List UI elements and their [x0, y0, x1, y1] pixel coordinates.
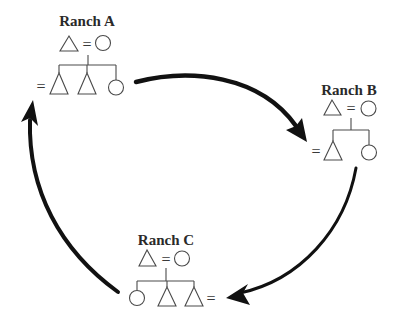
arrow-a-to-b-head-icon: [286, 118, 307, 142]
arrow-a-to-b-shaft: [136, 76, 296, 126]
ranch-c-child-marriage-sign: =: [206, 290, 215, 307]
arrow-b-to-c-head-icon: [226, 284, 250, 305]
ranch-c-parent-marriage-sign: =: [161, 251, 170, 268]
ranch-c-father-triangle-icon: [139, 250, 156, 266]
ranch-a-daughter-circle-icon: [109, 80, 124, 95]
ranch-b-son-triangle-icon: [324, 141, 342, 160]
ranch-b-father-triangle-icon: [324, 100, 341, 115]
ranch-a-father-triangle-icon: [60, 36, 78, 51]
ranch-a-mother-circle-icon: [96, 36, 111, 51]
ranch-b-child-marriage-sign: =: [311, 143, 320, 160]
ranch-a-son-2-triangle-icon: [78, 73, 96, 94]
ranch-b-daughter-circle-icon: [362, 145, 377, 160]
ranch-c-son-1-triangle-icon: [158, 287, 176, 306]
ranch-c-title: Ranch C: [138, 232, 194, 248]
ranch-c-group: Ranch C = =: [130, 232, 216, 307]
arrow-c-to-a-shaft: [30, 120, 118, 292]
arrow-b-to-c: [226, 168, 356, 305]
ranch-a-group: Ranch A = =: [36, 13, 123, 95]
ranch-a-child-marriage-sign: =: [36, 78, 45, 95]
arrow-a-to-b: [136, 76, 307, 142]
ranch-b-mother-circle-icon: [361, 101, 376, 116]
ranch-b-parent-marriage-sign: =: [346, 100, 355, 117]
ranch-exchange-diagram: Ranch A = = Ranch B = = Ranch C =: [0, 0, 396, 326]
arrow-c-to-a: [21, 100, 118, 292]
arrow-b-to-c-shaft: [240, 168, 356, 293]
ranch-b-title: Ranch B: [321, 82, 376, 98]
ranch-c-mother-circle-icon: [175, 251, 190, 266]
ranch-a-son-1-triangle-icon: [50, 73, 68, 94]
ranch-c-son-2-triangle-icon: [185, 287, 203, 306]
ranch-a-title: Ranch A: [59, 13, 115, 29]
ranch-b-group: Ranch B = =: [311, 82, 376, 160]
ranch-c-daughter-circle-icon: [130, 291, 145, 306]
ranch-a-parent-marriage-sign: =: [82, 36, 91, 53]
